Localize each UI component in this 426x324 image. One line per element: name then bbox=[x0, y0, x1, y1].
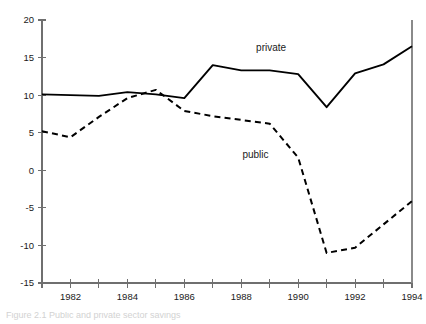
x-tick-label: 1992 bbox=[345, 291, 366, 302]
x-tick-label: 1984 bbox=[117, 291, 138, 302]
y-tick-label: -5 bbox=[26, 202, 34, 213]
series-inline-labels: privatepublic bbox=[242, 42, 286, 160]
x-tick-label: 1982 bbox=[60, 291, 81, 302]
x-tick-label: 1990 bbox=[288, 291, 309, 302]
y-tick-label: 5 bbox=[29, 127, 34, 138]
x-axis-ticks: 1982198419861988199019921994 bbox=[42, 279, 423, 303]
series-label-public: public bbox=[242, 149, 268, 160]
x-tick-label: 1988 bbox=[231, 291, 252, 302]
y-tick-label: -15 bbox=[20, 277, 34, 288]
chart-figure: 20151050-5-10-15 19821984198619881990199… bbox=[0, 0, 426, 324]
data-series-group bbox=[42, 46, 412, 253]
series-line-private bbox=[42, 46, 412, 107]
series-label-private: private bbox=[256, 42, 286, 53]
y-tick-label: -10 bbox=[20, 240, 34, 251]
y-tick-label: 10 bbox=[23, 90, 34, 101]
x-tick-label: 1986 bbox=[174, 291, 195, 302]
line-chart-canvas: 20151050-5-10-15 19821984198619881990199… bbox=[0, 0, 426, 324]
y-tick-label: 0 bbox=[29, 165, 34, 176]
y-tick-label: 20 bbox=[23, 14, 34, 25]
y-tick-label: 15 bbox=[23, 52, 34, 63]
x-tick-label: 1994 bbox=[401, 291, 422, 302]
series-line-public bbox=[42, 90, 412, 253]
